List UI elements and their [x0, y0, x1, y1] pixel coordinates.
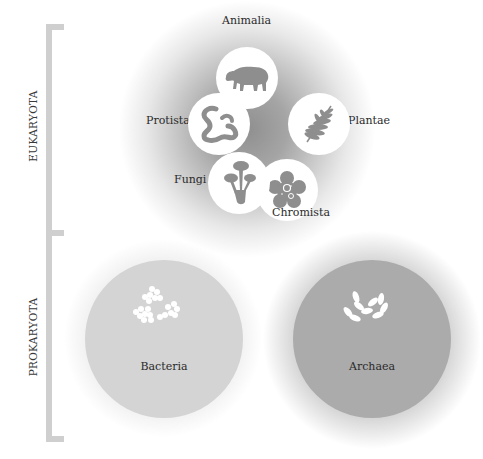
chromista-label: Chromista	[272, 206, 330, 219]
bacteria-label: Bacteria	[114, 360, 214, 373]
rod-cells-icon	[341, 290, 401, 330]
kingdom-plantae	[288, 93, 350, 155]
fern-leaf-icon	[301, 104, 337, 144]
kingdom-protista	[188, 93, 250, 155]
domain-bacteria: Bacteria	[85, 260, 243, 418]
eukaryota-label: EUKARYOTA	[26, 66, 40, 186]
mushroom-icon	[221, 160, 257, 206]
fungi-label: Fungi	[174, 173, 206, 186]
tapir-icon	[224, 63, 270, 93]
plantae-label: Plantae	[348, 114, 390, 127]
domain-archaea: Archaea	[293, 260, 451, 418]
squiggle-icon	[196, 104, 242, 144]
animalia-label: Animalia	[222, 14, 271, 27]
prokaryota-label: PROKARYOTA	[26, 277, 40, 397]
flower-cell-icon	[267, 170, 307, 210]
protista-label: Protista	[146, 114, 190, 127]
cocci-clusters-icon	[130, 285, 190, 335]
archaea-label: Archaea	[322, 360, 422, 373]
kingdom-fungi	[208, 152, 270, 214]
